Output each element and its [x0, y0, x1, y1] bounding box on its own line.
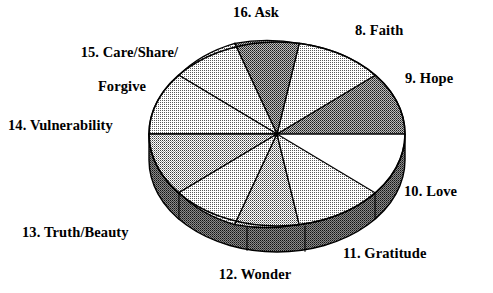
pie-label-care-line1: 15. Care/Share/: [81, 44, 179, 60]
pie-label-ask: 16. Ask: [201, 4, 311, 21]
pie-label-faith: 8. Faith: [355, 22, 475, 39]
pie-label-gratitude: 11. Gratitude: [343, 245, 483, 262]
pie-label-truth-beauty: 13. Truth/Beauty: [22, 224, 202, 241]
pie-chart-figure: 16. Ask 8. Faith 9. Hope 10. Love 11. Gr…: [0, 0, 493, 293]
pie-label-hope: 9. Hope: [405, 70, 493, 87]
pie-label-love: 10. Love: [404, 183, 493, 200]
pie-label-care-line2: Forgive: [38, 78, 206, 95]
pie-label-wonder: 12. Wonder: [195, 266, 315, 283]
pie-label-care-share-forgive: 15. Care/Share/ Forgive: [38, 27, 206, 130]
